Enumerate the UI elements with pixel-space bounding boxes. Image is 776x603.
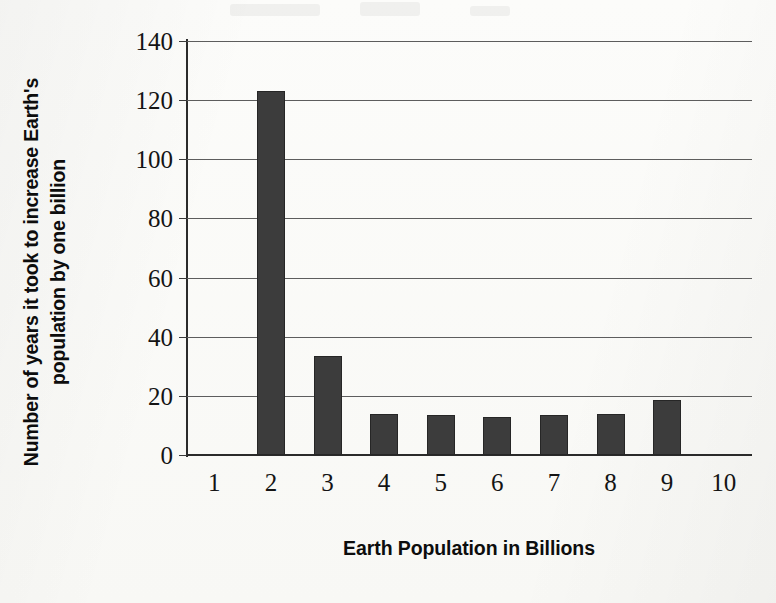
y-tick-label-140: 140	[136, 29, 174, 54]
y-tick-label-40: 40	[148, 324, 173, 349]
y-tick-label-0: 0	[161, 443, 174, 468]
bar-8	[597, 414, 625, 455]
plot-area: 020406080100120140	[186, 41, 752, 455]
bar-series	[186, 41, 752, 455]
x-axis-ticks: 12345678910	[186, 470, 752, 510]
x-tick-label-9: 9	[661, 470, 674, 495]
chart-page: Number of years it took to increase Eart…	[0, 0, 776, 603]
x-tick-label-7: 7	[548, 470, 561, 495]
y-tick-label-120: 120	[136, 88, 174, 113]
x-tick-label-5: 5	[434, 470, 447, 495]
x-tick-label-3: 3	[321, 470, 334, 495]
y-tick-mark-0	[179, 455, 187, 456]
x-tick-label-4: 4	[378, 470, 391, 495]
scan-artifact	[230, 4, 320, 16]
bar-5	[427, 415, 455, 455]
x-tick-label-1: 1	[208, 470, 221, 495]
bar-7	[540, 415, 568, 455]
x-tick-label-10: 10	[711, 470, 736, 495]
y-tick-label-60: 60	[148, 265, 173, 290]
y-tick-label-20: 20	[148, 383, 173, 408]
bar-2	[257, 91, 285, 455]
scan-artifact	[470, 6, 510, 16]
bar-9	[653, 400, 681, 455]
x-tick-label-6: 6	[491, 470, 504, 495]
x-axis-title: Earth Population in Billions	[186, 537, 752, 560]
y-tick-label-100: 100	[136, 147, 174, 172]
y-axis-title-line-2: population by one billion	[45, 37, 72, 507]
x-tick-label-8: 8	[604, 470, 617, 495]
scan-artifact	[360, 2, 420, 16]
bar-6	[483, 417, 511, 455]
y-tick-label-80: 80	[148, 206, 173, 231]
bar-4	[370, 414, 398, 455]
y-axis-title-line-1: Number of years it took to increase Eart…	[18, 37, 45, 507]
y-axis-title: Number of years it took to increase Eart…	[18, 37, 72, 507]
x-tick-label-2: 2	[265, 470, 278, 495]
bar-3	[314, 356, 342, 455]
